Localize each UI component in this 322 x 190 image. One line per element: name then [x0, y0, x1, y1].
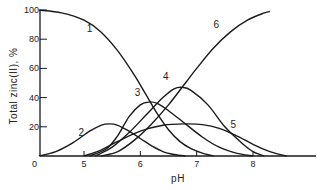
- curve-label-2: 2: [78, 127, 84, 138]
- y-tick-label: 80: [29, 34, 39, 44]
- curves: [39, 10, 287, 156]
- x-tick-label: 7: [194, 159, 199, 169]
- y-tick-label: 40: [29, 93, 39, 103]
- curve-4: [95, 87, 264, 156]
- curve-1: [39, 10, 214, 156]
- y-tick-label: 60: [29, 63, 39, 73]
- y-axis-title: Total zinc(II), %: [8, 48, 19, 125]
- curve-label-1: 1: [87, 23, 93, 34]
- curve-label-5: 5: [230, 119, 236, 130]
- curve-label-6: 6: [214, 19, 220, 30]
- curve-3: [90, 102, 253, 156]
- axes: 5678020406080100: [24, 5, 316, 169]
- x-tick-label: 5: [81, 159, 86, 169]
- curve-label-3: 3: [135, 87, 141, 98]
- x-axis-title: pH: [171, 173, 185, 184]
- curve-label-4: 4: [163, 71, 169, 82]
- y-tick-label: 20: [29, 122, 39, 132]
- curve-labels: 123456: [78, 19, 236, 138]
- y-tick-label: 100: [24, 5, 39, 15]
- chart-figure: 5678020406080100 123456 pH Total zinc(II…: [0, 0, 322, 190]
- zinc-speciation-chart: 5678020406080100 123456 pH Total zinc(II…: [0, 0, 322, 190]
- x-tick-label: 6: [138, 159, 143, 169]
- y-tick-label: 0: [32, 159, 37, 169]
- curve-2: [39, 124, 186, 156]
- x-tick-label: 8: [250, 159, 255, 169]
